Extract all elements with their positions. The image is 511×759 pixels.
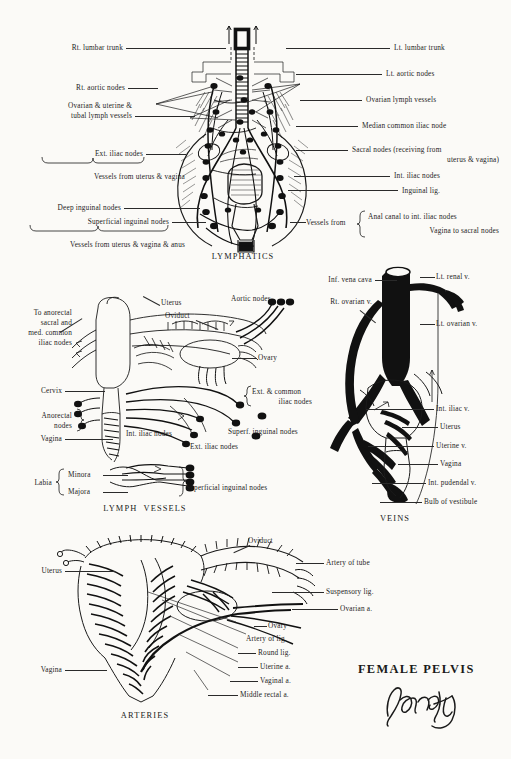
- leader-line: [172, 222, 206, 223]
- label-ovarian-lymph-vessels: Ovarian lymph vessels: [366, 95, 436, 104]
- leader-line: [290, 222, 306, 223]
- label-v-rt-ovarian-v: Rt. ovarian v.: [300, 297, 372, 306]
- brace-labia: [56, 468, 66, 496]
- label-inguinal-lig: Inguinal lig.: [402, 186, 440, 195]
- label-a-ovary: Ovary: [268, 621, 287, 630]
- leader-line: [124, 208, 200, 209]
- leader-line: [296, 74, 382, 75]
- leader-line: [103, 492, 128, 493]
- section-title-arteries: ARTERIES: [90, 711, 200, 720]
- label-anal-canal-to-int-iliac: Anal canal to int. iliac nodes: [368, 212, 457, 221]
- leader-line: [296, 150, 348, 151]
- leader-line: [126, 48, 226, 49]
- leader-line: [232, 358, 257, 359]
- label-v-lt-ovarian-v: Lt. ovarian v.: [436, 319, 477, 328]
- section-title-lymph-vessels: LYMPH VESSELS: [75, 504, 215, 513]
- leader-line: [294, 176, 390, 177]
- label-lt-aortic-nodes: Lt. aortic nodes: [386, 69, 434, 78]
- leader-line: [103, 475, 128, 476]
- brace-vessels-from: [357, 210, 367, 238]
- label-lv-minora: Minora: [68, 470, 91, 479]
- artist-signature: Pansky: [382, 682, 468, 730]
- brace-superficial-inguinal-right: [177, 466, 186, 498]
- leader-line: [286, 48, 390, 49]
- label-v-uterus: Uterus: [440, 422, 461, 431]
- lymph-nodes: [200, 75, 286, 229]
- label-lv-ext-common-iliac-2: iliac nodes: [252, 397, 312, 406]
- label-a-suspensory-lig: Suspensory lig.: [326, 587, 374, 596]
- brace-superficial-inguinal: [28, 224, 170, 233]
- section-title-lymphatics: LYMPHATICS: [178, 252, 308, 261]
- arteries-leader-fan: [140, 590, 270, 700]
- leader-line: [420, 324, 435, 325]
- label-lv-majora: Majora: [68, 487, 90, 496]
- label-lv-uterus: Uterus: [161, 298, 182, 307]
- label-lv-labia: Labia: [10, 478, 52, 487]
- label-lv-to-anorectal-1: To anorectal: [10, 308, 72, 317]
- label-lv-vagina: Vagina: [10, 434, 62, 443]
- label-v-int-iliac-v: Int. iliac v.: [436, 404, 469, 413]
- label-rt-aortic-nodes: Rt. aortic nodes: [10, 83, 125, 92]
- label-lv-superficial-inguinal-nodes: Superficial inguinal nodes: [186, 483, 267, 492]
- label-v-bulb-of-vestibule: Bulb of vestibule: [424, 497, 477, 506]
- label-vessels-from: Vessels from: [306, 218, 346, 227]
- label-lv-aortic-nodes: Aortic nodes: [231, 294, 271, 303]
- page-title: FEMALE PELVIS: [358, 662, 475, 677]
- leader-line: [65, 571, 115, 572]
- leader-line: [366, 409, 434, 410]
- label-deep-inguinal-nodes: Deep inguinal nodes: [10, 203, 121, 212]
- leader-line: [398, 464, 438, 465]
- leader-line: [402, 427, 438, 428]
- leader-line: [288, 190, 398, 191]
- label-lv-ovary: Ovary: [258, 353, 277, 362]
- brace-anorectal-nodes: [75, 408, 84, 432]
- label-ovarian-uterine-tubal-1: Ovarian & uterine &: [10, 101, 132, 110]
- label-lv-oviduct: Oviduct: [165, 311, 190, 320]
- leader-line: [372, 483, 426, 484]
- brace-ext-common-iliac: [244, 385, 253, 407]
- label-sacral-nodes-1: Sacral nodes (receiving from: [352, 145, 442, 154]
- label-a-vagina: Vagina: [10, 665, 62, 674]
- leader-line: [296, 563, 324, 564]
- leader-line: [272, 592, 324, 593]
- label-a-artery-of-tube: Artery of tube: [326, 558, 370, 567]
- label-vessels-uterus-vagina-anus: Vessels from uterus & vagina & anus: [10, 240, 185, 249]
- label-ovarian-uterine-tubal-2: tubal lymph vessels: [10, 111, 132, 120]
- label-a-ovarian-a: Ovarian a.: [340, 604, 372, 613]
- label-a-oviduct: Oviduct: [248, 536, 273, 545]
- leader-line: [368, 446, 434, 447]
- leader-line: [65, 439, 113, 440]
- leader-line: [65, 670, 107, 671]
- leader-line: [128, 88, 158, 89]
- leader-line: [296, 126, 358, 127]
- label-lv-anorectal-2: nodes: [20, 421, 72, 430]
- label-v-uterine-v: Uterine v.: [436, 441, 467, 450]
- label-v-inf-vena-cava: Inf. vena cava: [300, 275, 372, 284]
- label-lv-anorectal-1: Anorectal: [20, 411, 72, 420]
- leader-line: [300, 100, 362, 101]
- leader-line: [420, 277, 435, 278]
- label-lv-ext-iliac-nodes: Ext. iliac nodes: [190, 442, 238, 451]
- label-vessels-uterus-vagina: Vessels from uterus & vagina: [10, 172, 185, 181]
- label-v-lt-renal-v: Lt. renal v.: [436, 272, 470, 281]
- leader-line: [135, 116, 195, 117]
- label-lt-lumbar-trunk: Lt. lumbar trunk: [394, 43, 445, 52]
- label-v-int-pudendal-v: Int. pudendal v.: [428, 478, 476, 487]
- label-lv-to-anorectal-2: sacral and: [10, 318, 72, 327]
- label-lv-to-anorectal-4: iliac nodes: [10, 338, 72, 347]
- label-lv-superf-inguinal-nodes: Superf. inguinal nodes: [228, 427, 298, 436]
- label-a-uterus: Uterus: [10, 566, 62, 575]
- atlas-page: Rt. lumbar trunk Rt. aortic nodes Ovaria…: [0, 0, 511, 759]
- label-v-vagina: Vagina: [440, 459, 461, 468]
- leader-line: [375, 280, 397, 281]
- label-lv-int-iliac-nodes: Int. iliac nodes: [126, 429, 172, 438]
- label-median-common-iliac-node: Median common iliac node: [362, 121, 446, 130]
- label-lv-cervix: Cervix: [10, 386, 62, 395]
- label-sacral-nodes-2: uterus & vagina): [352, 155, 499, 164]
- section-title-veins: VEINS: [340, 514, 450, 523]
- label-lv-ext-common-iliac-1: Ext. & common: [252, 387, 301, 396]
- leader-line: [380, 502, 422, 503]
- label-int-iliac-nodes: Int. iliac nodes: [394, 171, 440, 180]
- label-vagina-to-sacral-nodes: Vagina to sacral nodes: [368, 226, 499, 235]
- leader-line: [65, 391, 105, 392]
